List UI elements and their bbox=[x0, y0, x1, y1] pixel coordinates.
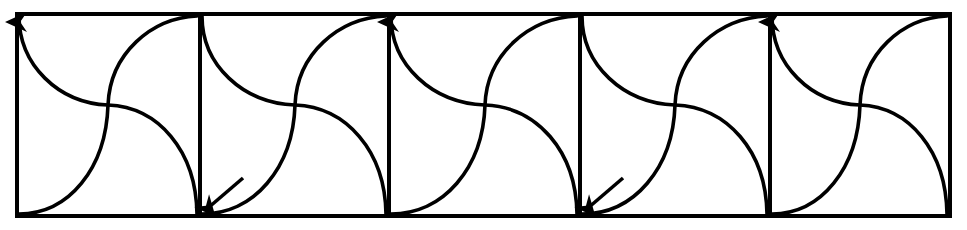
figure-canvas bbox=[0, 0, 967, 230]
s-curve-tiling-diagram bbox=[0, 0, 967, 230]
